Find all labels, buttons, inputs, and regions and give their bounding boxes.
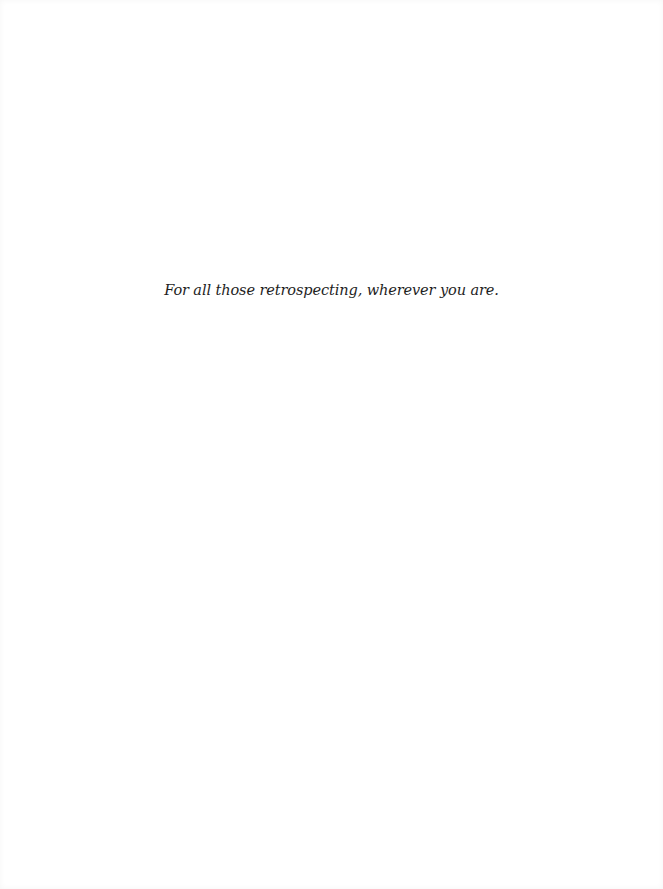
dedication-text: For all those retrospecting, wherever yo… xyxy=(0,280,663,300)
book-page: For all those retrospecting, wherever yo… xyxy=(0,0,663,889)
